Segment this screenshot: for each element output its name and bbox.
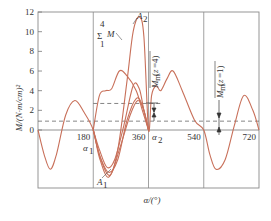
sum-var: M [106, 29, 115, 39]
y-tick-label: 10 [25, 27, 35, 37]
mm-z1-label: Mm(z=1) [215, 61, 227, 99]
x-tick-label: 540 [187, 132, 201, 142]
y-tick-label: 4 [30, 86, 35, 96]
svg-text:=4): =4) [150, 55, 160, 68]
y-tick-label: 8 [30, 46, 35, 56]
mm-z1-arrow [217, 100, 221, 135]
x-tick-label: 180 [77, 132, 91, 142]
svg-text:z: z [215, 79, 225, 84]
y-axis-label: M/(N·m/cm)² [14, 84, 24, 132]
x-axis-label: α/(°) [144, 195, 161, 205]
mm-z4-label: Mm(z=4) [150, 51, 162, 89]
x-tick-label: 720 [243, 132, 257, 142]
sum-top-index: 4 [100, 19, 105, 29]
svg-text:z: z [150, 69, 160, 74]
a1-sub: 1 [103, 180, 108, 190]
alpha1-label: α [83, 143, 88, 153]
x-tick-label: 360 [132, 132, 146, 142]
y-tick-label: 12 [25, 7, 34, 17]
chart: 024681012 180360540720 4ΣM1A2A1α1α2Mm(z=… [0, 0, 271, 221]
y-axis-ticks: 024681012 [25, 7, 42, 135]
alpha2-label: α [152, 132, 157, 142]
a2-sub: 2 [143, 14, 148, 24]
y-tick-label: 6 [30, 66, 35, 76]
curve-m2 [93, 83, 148, 168]
a2-label: A [136, 11, 143, 21]
alpha1-sub: 1 [89, 146, 94, 156]
sum-bottom-index: 1 [100, 39, 105, 49]
y-tick-label: 2 [30, 105, 35, 115]
svg-text:=1): =1) [215, 65, 225, 78]
a1-label: A [96, 177, 103, 187]
y-tick-label: 0 [30, 125, 35, 135]
alpha2-sub: 2 [158, 135, 163, 145]
x-axis-ticks: 180360540720 [77, 132, 257, 142]
